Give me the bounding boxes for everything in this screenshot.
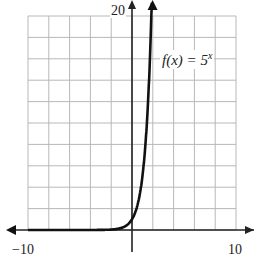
function-label-exponent: x (208, 50, 212, 61)
x-axis-min-label: −10 (12, 242, 34, 258)
x-axis-max-label: 10 (228, 242, 242, 258)
function-label: f(x) = 5x (160, 50, 214, 69)
function-label-base: f(x) = 5 (162, 52, 208, 68)
exponential-graph (0, 0, 261, 273)
y-axis-max-label: 20 (110, 4, 126, 18)
